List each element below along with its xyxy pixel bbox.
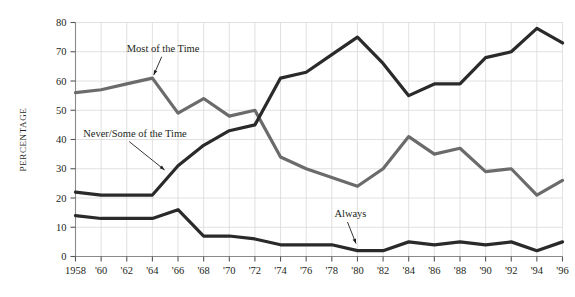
y-tick-label: 20 <box>56 193 67 204</box>
annotation-label: Always <box>334 208 366 219</box>
y-tick-label: 30 <box>56 163 67 174</box>
x-tick-label: '90 <box>479 265 491 276</box>
y-tick-label: 40 <box>56 134 67 145</box>
y-tick-label: 70 <box>56 46 67 57</box>
x-tick-label: '84 <box>403 265 416 276</box>
y-tick-label: 80 <box>56 17 67 28</box>
y-tick-label: 0 <box>61 251 66 262</box>
chart-background <box>0 0 575 297</box>
y-axis-title: PERCENTAGE <box>18 108 28 172</box>
x-tick-label: '86 <box>428 265 440 276</box>
x-tick-label: '94 <box>531 265 544 276</box>
x-tick-label: '88 <box>454 265 466 276</box>
x-tick-label: '80 <box>351 265 363 276</box>
x-tick-label: '60 <box>95 265 107 276</box>
x-tick-label: '70 <box>223 265 235 276</box>
x-tick-label: 1958 <box>65 265 86 276</box>
x-tick-label: '92 <box>505 265 517 276</box>
x-tick-label: '64 <box>146 265 159 276</box>
x-tick-label: '72 <box>249 265 261 276</box>
chart-figure: 01020304050607080 1958'60'62'64'66'68'70… <box>0 0 575 297</box>
x-tick-label: '82 <box>377 265 389 276</box>
x-tick-label: '96 <box>556 265 568 276</box>
annotation-label: Never/Some of the Time <box>83 128 187 139</box>
y-tick-label: 10 <box>56 222 67 233</box>
annotation-label: Most of the Time <box>127 43 200 54</box>
x-tick-label: '68 <box>197 265 209 276</box>
x-tick-label: '74 <box>274 265 287 276</box>
x-tick-label: '66 <box>172 265 184 276</box>
y-tick-label: 50 <box>56 105 67 116</box>
x-tick-label: '76 <box>300 265 312 276</box>
x-tick-label: '62 <box>121 265 133 276</box>
y-tick-label: 60 <box>56 76 67 87</box>
line-chart: 01020304050607080 1958'60'62'64'66'68'70… <box>0 0 575 297</box>
x-tick-label: '78 <box>326 265 338 276</box>
